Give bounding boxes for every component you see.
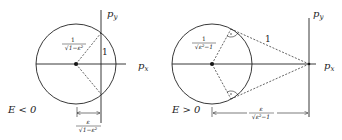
svg-text:ε: ε	[86, 118, 89, 125]
radius-dashed-lower	[76, 64, 101, 94]
right-angle-mark-lower	[227, 91, 238, 95]
case-label: E > 0	[171, 104, 201, 115]
svg-text:1: 1	[202, 35, 206, 42]
radius-fraction: 1 √1−ε²	[62, 36, 86, 51]
svg-text:1: 1	[71, 36, 75, 43]
px-label: px	[324, 60, 334, 73]
svg-text:√ε²−1: √ε²−1	[195, 43, 213, 50]
distance-fraction: ε √1−ε²	[76, 118, 101, 133]
hodograph-diagrams: py px 1 1 √1−ε² E < 0 ε √1−ε² py	[0, 0, 342, 140]
svg-text:ε: ε	[259, 105, 262, 112]
radius-dashed-lower	[212, 64, 231, 99]
radius-dashed-upper	[212, 29, 231, 64]
diagram-hyperbolic: py px 1 1 √ε²−1 E > 0 ε √ε²−1	[171, 8, 334, 120]
tangent-dashed-lower	[231, 64, 309, 99]
svg-text:√ε²−1: √ε²−1	[252, 113, 270, 120]
radius-fraction: 1 √ε²−1	[192, 35, 216, 50]
side-label: 1	[102, 47, 108, 57]
py-label: py	[313, 8, 324, 21]
svg-text:√1−ε²: √1−ε²	[65, 44, 84, 51]
py-label: py	[107, 8, 118, 21]
case-label: E < 0	[7, 104, 37, 115]
side-label: 1	[265, 34, 271, 44]
svg-text:√1−ε²: √1−ε²	[79, 126, 98, 133]
right-angle-mark-upper	[227, 33, 238, 37]
diagram-elliptic: py px 1 1 √1−ε² E < 0 ε √1−ε²	[7, 8, 148, 133]
px-label: px	[138, 60, 148, 73]
